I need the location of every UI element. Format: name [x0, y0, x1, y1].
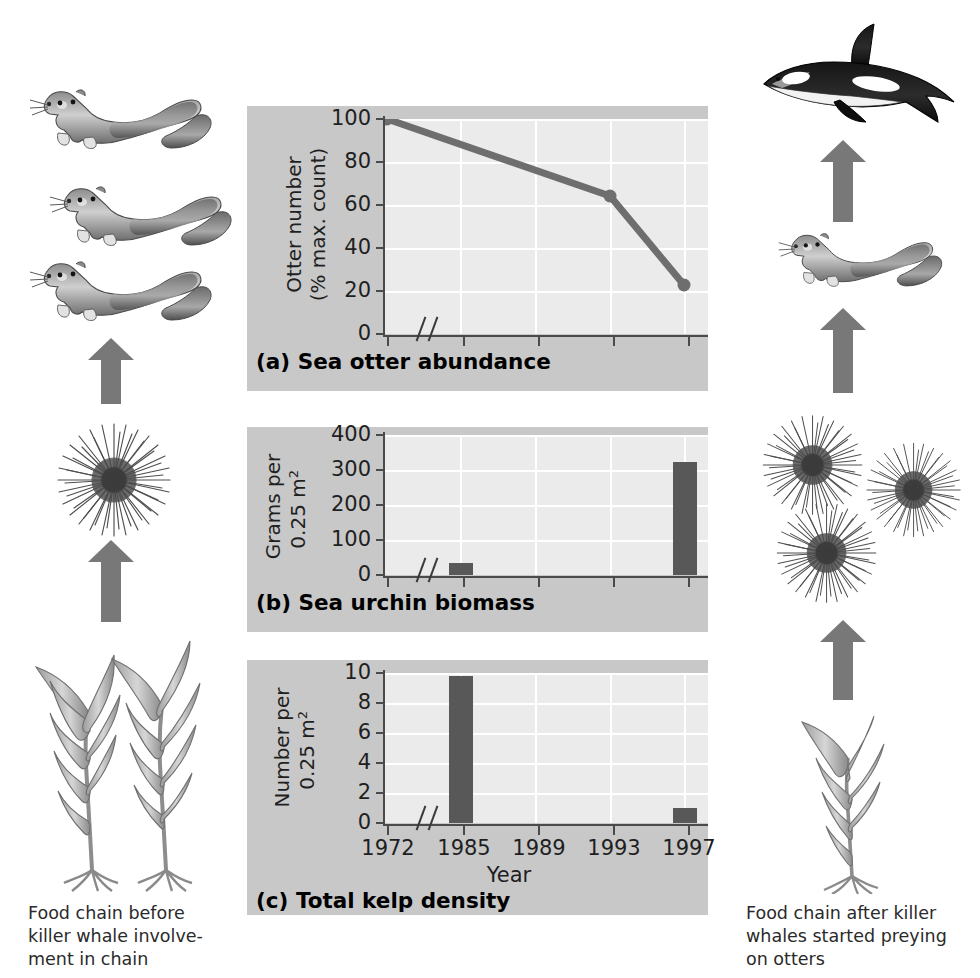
right-caption-line-3: on otters	[746, 948, 980, 971]
right-caption-line-1: Food chain after killer	[746, 902, 980, 925]
arrow-up-icon	[820, 308, 866, 393]
bar-1985	[449, 676, 473, 823]
y-axis-b	[383, 432, 385, 578]
axis-break-mark	[418, 805, 444, 835]
y-axis-title-line-2: 0.25 m2	[291, 662, 320, 838]
bar-1997	[673, 808, 697, 823]
y-tick-label: 400	[307, 424, 371, 445]
right-chain-caption: Food chain after killer whales started p…	[746, 902, 980, 971]
sea-otter-illustration	[38, 175, 238, 253]
axis-break-mark	[418, 316, 444, 346]
x-tick-label: 1972	[348, 838, 428, 859]
y-axis-c	[383, 670, 385, 826]
left-caption-line-2: killer whale involve-	[28, 925, 238, 948]
y-tick-label: 200	[307, 494, 371, 515]
y-axis-title-line-2: 0.25 m2	[282, 429, 311, 589]
left-chain-caption: Food chain before killer whale involve- …	[28, 902, 238, 971]
left-caption-line-3: ment in chain	[28, 948, 238, 971]
sea-urchin-illustration	[772, 500, 882, 606]
x-tick-label: 1993	[574, 838, 654, 859]
panel-title-b: (b) Sea urchin biomass	[256, 590, 535, 615]
panel-title-c: (c) Total kelp density	[256, 888, 510, 913]
plot-area-c	[385, 673, 708, 823]
x-axis-title: Year	[469, 865, 549, 886]
sea-urchin-illustration	[52, 420, 177, 540]
x-tick-label: 1989	[499, 838, 579, 859]
chart-panel-total-kelp-density: 10 8 6 4 2 0 Number per 0.25 m2 1972 198…	[247, 660, 708, 915]
axis-break-mark	[418, 557, 444, 587]
y-tick-label: 300	[307, 459, 371, 480]
y-axis-title-line-1: Otter number	[283, 118, 306, 332]
killer-whale-illustration	[748, 22, 963, 127]
sea-otter-illustration	[18, 78, 218, 156]
kelp-illustration	[780, 716, 925, 894]
bar-1997	[673, 462, 697, 575]
food-chain-left: Food chain before killer whale involve- …	[0, 0, 240, 978]
right-caption-line-2: whales started preying	[746, 925, 980, 948]
sea-otter-illustration	[18, 250, 218, 328]
bar-1985	[449, 563, 473, 575]
y-tick-label: 0	[307, 564, 371, 585]
left-caption-line-1: Food chain before	[28, 902, 238, 925]
y-axis-title-line-2: (% max. count)	[307, 118, 330, 332]
plot-area-a	[385, 119, 708, 334]
arrow-up-icon	[820, 140, 866, 222]
chart-panel-sea-otter-abundance: 100 80 60 40 20 0 Otter number (% max. c…	[247, 106, 708, 391]
kelp-illustration	[6, 625, 231, 895]
y-tick-label: 100	[307, 529, 371, 550]
food-chain-right: Food chain after killer whales started p…	[740, 0, 980, 978]
x-tick-label: 1997	[649, 838, 729, 859]
arrow-up-icon	[88, 540, 134, 622]
chart-panel-sea-urchin-biomass: 400 300 200 100 0 Grams per 0.25 m2 (b) …	[247, 427, 708, 632]
arrow-up-icon	[820, 620, 866, 700]
x-tick-label: 1985	[424, 838, 504, 859]
sea-otter-illustration	[768, 222, 948, 294]
y-axis-a	[383, 116, 385, 337]
arrow-up-icon	[88, 338, 134, 404]
panel-title-a: (a) Sea otter abundance	[256, 349, 551, 374]
line-series-otter-number	[385, 119, 708, 334]
plot-area-b	[385, 435, 708, 575]
